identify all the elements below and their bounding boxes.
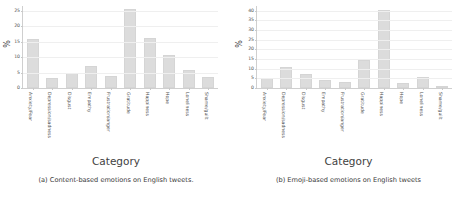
- x-axis-title-b: Category: [232, 155, 465, 167]
- x-tick-mark: [364, 88, 365, 90]
- x-tick-mark: [169, 88, 170, 90]
- bar-slot: [296, 6, 316, 88]
- x-tick-label: Hope: [164, 92, 169, 104]
- x-label-slot: Hope: [393, 91, 413, 147]
- x-tick-mark: [306, 88, 307, 90]
- y-tick-mark: [255, 20, 257, 21]
- x-tick-mark: [442, 88, 443, 90]
- x-tick-mark: [52, 88, 53, 90]
- y-tick-mark: [21, 57, 23, 58]
- x-label-slot: Loneliness: [413, 91, 433, 147]
- y-tick-mark: [255, 88, 257, 89]
- gridline: [257, 59, 452, 60]
- bar-slot: [374, 6, 394, 88]
- x-tick-mark: [267, 88, 268, 90]
- x-tick-mark: [150, 88, 151, 90]
- x-tick-label: Anxiety/Fear: [261, 92, 266, 121]
- x-label-slot: Hope: [159, 91, 179, 147]
- x-label-slot: Frustration/anger: [100, 91, 120, 147]
- bar-slot: [277, 6, 297, 88]
- x-tick-mark: [91, 88, 92, 90]
- x-tick-label: Anxiety/Fear: [27, 92, 32, 121]
- x-tick-label: Happiness: [145, 92, 150, 116]
- gridline: [257, 40, 452, 41]
- x-tick-label: Gratitude: [359, 92, 364, 114]
- chart-panel-a: % 0510152025 Anxiety/FearDepression/sadn…: [0, 0, 232, 203]
- bar-slot: [257, 6, 277, 88]
- x-tick-mark: [286, 88, 287, 90]
- bar: [124, 9, 136, 88]
- y-tick-label: 30: [248, 28, 254, 33]
- bar: [66, 73, 78, 88]
- y-tick-label: 15: [248, 57, 254, 62]
- gridline: [257, 11, 452, 12]
- y-tick-label: 15: [14, 39, 20, 44]
- x-tick-label: Depression/sadness: [281, 92, 286, 138]
- bar-slot: [433, 6, 453, 88]
- bar: [163, 55, 175, 88]
- x-tick-label: Loneliness: [418, 92, 423, 116]
- bar-slot: [335, 6, 355, 88]
- y-tick-mark: [21, 88, 23, 89]
- y-tick-label: 10: [14, 55, 20, 60]
- x-label-slot: Shame/guilt: [432, 91, 452, 147]
- x-tick-mark: [33, 88, 34, 90]
- bar: [144, 38, 156, 88]
- y-tick-label: 20: [248, 47, 254, 52]
- bar: [85, 66, 97, 88]
- y-tick-mark: [255, 59, 257, 60]
- panel-caption-b: (b) Emoji-based emotions on English twee…: [232, 176, 465, 184]
- bar-series-b: [257, 6, 452, 88]
- y-tick-label: 5: [17, 70, 20, 75]
- bar: [300, 74, 312, 88]
- gridline: [23, 26, 218, 27]
- x-tick-label: Loneliness: [184, 92, 189, 116]
- bar-series-a: [23, 6, 218, 88]
- x-label-slot: Depression/sadness: [276, 91, 296, 147]
- x-label-slot: Empathy: [81, 91, 101, 147]
- x-tick-label: Disgust: [300, 92, 305, 109]
- y-axis-title-b: %: [235, 40, 244, 48]
- bar-slot: [160, 6, 180, 88]
- y-tick-mark: [21, 26, 23, 27]
- x-tick-label: Shame/guilt: [204, 92, 209, 120]
- y-tick-mark: [21, 73, 23, 74]
- plot-wrapper-b: 0510152025303540: [256, 6, 452, 89]
- chart-panel-b: % 0510152025303540 Anxiety/FearDepressio…: [232, 0, 465, 203]
- x-tick-mark: [345, 88, 346, 90]
- gridline: [23, 11, 218, 12]
- y-tick-mark: [255, 40, 257, 41]
- bar: [319, 80, 331, 88]
- bar-slot: [82, 6, 102, 88]
- bar-slot: [199, 6, 219, 88]
- x-label-slot: Gratitude: [120, 91, 140, 147]
- y-tick-label: 25: [14, 8, 20, 13]
- x-tick-label: Depression/sadness: [47, 92, 52, 138]
- x-tick-label: Hope: [398, 92, 403, 104]
- x-tick-label: Frustration/anger: [106, 92, 111, 132]
- x-label-slot: Shame/guilt: [198, 91, 218, 147]
- x-label-slot: Loneliness: [179, 91, 199, 147]
- bar-slot: [316, 6, 336, 88]
- bar: [202, 77, 214, 88]
- y-tick-label: 35: [248, 18, 254, 23]
- y-tick-label: 0: [17, 86, 20, 91]
- x-axis-title-a: Category: [0, 155, 232, 167]
- plot-area-a: 0510152025: [22, 6, 218, 89]
- panel-caption-a: (a) Content-based emotions on English tw…: [0, 176, 232, 184]
- y-tick-label: 5: [251, 76, 254, 81]
- x-tick-mark: [111, 88, 112, 90]
- x-tick-mark: [325, 88, 326, 90]
- x-tick-label: Empathy: [86, 92, 91, 113]
- x-tick-mark: [403, 88, 404, 90]
- bar-slot: [355, 6, 375, 88]
- bar-slot: [121, 6, 141, 88]
- bar: [46, 78, 58, 88]
- x-label-slot: Happiness: [140, 91, 160, 147]
- y-tick-mark: [255, 11, 257, 12]
- y-tick-label: 10: [248, 66, 254, 71]
- y-tick-mark: [255, 49, 257, 50]
- x-label-slot: Disgust: [61, 91, 81, 147]
- figure-container: % 0510152025 Anxiety/FearDepression/sadn…: [0, 0, 465, 203]
- x-tick-label: Shame/guilt: [438, 92, 443, 120]
